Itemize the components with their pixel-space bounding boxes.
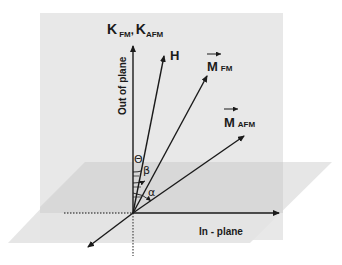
out-of-plane-label: Out of plane bbox=[117, 56, 128, 115]
field-label: H bbox=[170, 48, 179, 63]
theta-symbol: Θ bbox=[134, 153, 143, 166]
in-plane-label: In - plane bbox=[199, 226, 243, 237]
vector-diagram: KFM,KAFM Out of plane H MFM MAFM In - pl… bbox=[0, 0, 342, 265]
beta-symbol: β bbox=[143, 164, 150, 177]
alpha-symbol: α bbox=[148, 186, 155, 199]
